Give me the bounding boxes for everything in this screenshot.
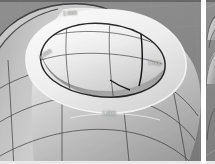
surface-mesh-right [206, 0, 215, 164]
surface-render-left-panel: 1.000 1.000 1.000 1.000 [0, 0, 201, 164]
panel-top-border [0, 0, 201, 2]
surface-render-right-panel [206, 0, 215, 164]
figure-root: 1.000 1.000 1.000 1.000 [0, 0, 215, 164]
panel-bottom-border-right [206, 161, 215, 164]
panel-top-border-right [206, 0, 215, 2]
surface-mesh [0, 0, 201, 164]
panel-bottom-border [0, 161, 201, 164]
